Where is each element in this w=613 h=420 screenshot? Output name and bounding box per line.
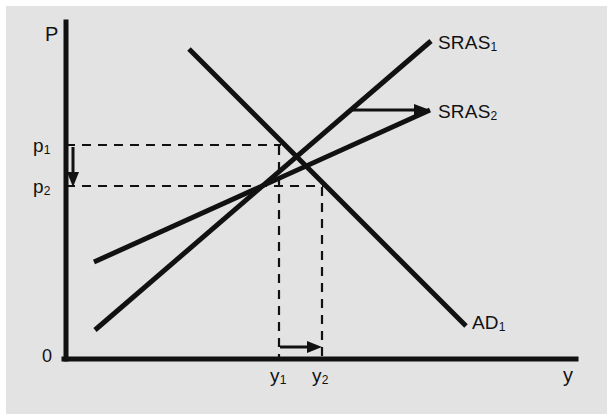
- axes: [64, 22, 576, 359]
- annotation-arrows: [67, 104, 430, 353]
- price-tick-p2-sub: 2: [44, 184, 51, 198]
- price-fall-arrow-icon: [67, 147, 79, 187]
- diagram-canvas: [0, 0, 613, 420]
- price-tick-p2-base: p: [33, 176, 44, 197]
- price-tick-p1-base: p: [33, 135, 44, 156]
- curve-label-ad1-base: AD: [472, 312, 499, 333]
- curve-label-sras2: SRAS2: [438, 102, 497, 121]
- output-rise-arrow-icon: [280, 341, 322, 353]
- x-axis-label: y: [563, 365, 573, 385]
- price-tick-p1-sub: 1: [44, 143, 51, 157]
- economics-diagram-figure: P y 0 p1 p2 y1 y2 SRAS1 SRAS2 AD1: [0, 0, 613, 420]
- output-tick-y1-sub: 1: [280, 373, 287, 387]
- price-tick-label-p2: p2: [33, 177, 51, 196]
- output-tick-y2-sub: 2: [322, 373, 329, 387]
- output-tick-label-y1: y1: [270, 366, 287, 385]
- output-tick-y2-base: y: [312, 365, 322, 386]
- curve-label-ad1-sub: 1: [499, 320, 506, 334]
- y-axis-label: P: [45, 24, 59, 44]
- curve-label-sras2-sub: 2: [491, 109, 498, 123]
- origin-label: 0: [42, 347, 52, 365]
- curve-label-sras1-sub: 1: [491, 40, 498, 54]
- output-tick-y1-base: y: [270, 365, 280, 386]
- curve-label-sras2-base: SRAS: [438, 101, 491, 122]
- output-tick-label-y2: y2: [312, 366, 329, 385]
- curve-label-sras1-base: SRAS: [438, 32, 491, 53]
- price-tick-label-p1: p1: [33, 136, 51, 155]
- sras-shift-arrow-icon: [352, 104, 430, 116]
- ad1-curve: [189, 49, 466, 326]
- curve-label-ad1: AD1: [472, 313, 506, 332]
- curve-label-sras1: SRAS1: [438, 33, 497, 52]
